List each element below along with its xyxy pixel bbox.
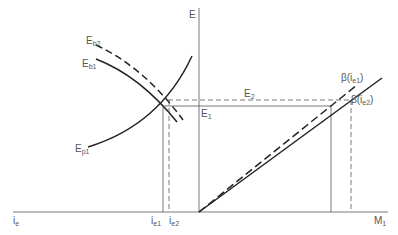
axis-label-e: E	[189, 9, 196, 20]
curve-eb1	[96, 59, 177, 122]
ray-beta-ie1	[199, 85, 357, 212]
curve-label-eb1: Eb1	[82, 58, 97, 70]
curve-label-eb2: Eb2	[86, 35, 101, 47]
ray-label-beta-ie1: β(ie1)	[341, 72, 363, 84]
curve-eb2	[96, 45, 183, 120]
tick-label-ie1: ie1	[151, 215, 161, 227]
economics-diagram: E ie M1 Eb2 Eb1 Ep1 E1 E2 ie1 ie2 β(ie1)…	[0, 0, 398, 235]
level-label-e2: E2	[244, 88, 255, 100]
curve-ep1	[88, 56, 192, 147]
level-label-e1: E1	[201, 108, 212, 120]
tick-label-ie2: ie2	[169, 215, 179, 227]
ray-label-beta-ie2: β(ie2)	[351, 94, 373, 106]
axis-label-ie: ie	[13, 215, 19, 227]
curve-label-ep1: Ep1	[75, 143, 90, 156]
axis-label-m1: M1	[374, 215, 386, 227]
